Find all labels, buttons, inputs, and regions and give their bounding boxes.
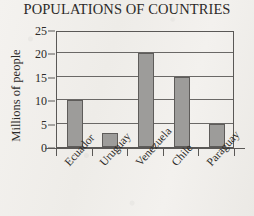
y-tick-mark	[48, 77, 55, 78]
x-tick-mark	[163, 149, 164, 156]
bar	[138, 53, 154, 147]
y-tick-label: 10	[35, 94, 47, 109]
y-tick-mark	[48, 31, 55, 32]
y-tick-mark	[48, 101, 55, 102]
y-axis-title: Millions of people	[9, 36, 24, 156]
y-tick-label: 15	[35, 70, 47, 85]
y-tick-label: 25	[35, 24, 47, 39]
x-tick-mark	[234, 149, 235, 156]
y-tick-mark	[48, 54, 55, 55]
x-tick-mark	[198, 149, 199, 156]
x-tick-mark	[92, 149, 93, 156]
y-tick-label: 20	[35, 47, 47, 62]
x-tick-mark	[127, 149, 128, 156]
x-tick-mark	[56, 149, 57, 156]
bar-chart: POPULATIONS OF COUNTRIES Millions of peo…	[0, 0, 254, 216]
plot-area	[56, 31, 234, 148]
y-tick-mark	[48, 124, 55, 125]
bar	[174, 77, 190, 147]
y-axis: Millions of people 0510152025	[0, 0, 56, 216]
y-tick-label: 5	[41, 117, 47, 132]
